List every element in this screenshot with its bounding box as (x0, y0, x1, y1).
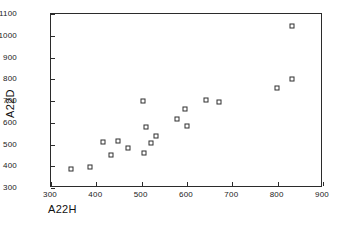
data-point-marker (185, 124, 190, 129)
data-point-marker (141, 99, 146, 104)
x-tick-mark (187, 182, 188, 186)
x-tick-label: 800 (270, 190, 284, 199)
y-tick-label: 500 (3, 139, 17, 148)
x-tick-label: 500 (134, 190, 148, 199)
y-tick-mark (51, 123, 55, 124)
y-tick-mark (51, 145, 55, 146)
x-tick-label: 900 (315, 190, 329, 199)
data-point-marker (182, 106, 187, 111)
data-point-marker (109, 153, 114, 158)
x-tick-mark (142, 182, 143, 186)
y-tick-mark (51, 79, 55, 80)
x-tick-label: 600 (179, 190, 193, 199)
data-point-marker (216, 99, 221, 104)
data-point-marker (100, 139, 105, 144)
y-tick-label: 400 (3, 161, 17, 170)
x-tick-label: 400 (88, 190, 102, 199)
x-axis-title: A22H (48, 203, 77, 215)
x-tick-mark (323, 182, 324, 186)
x-tick-label: 700 (224, 190, 238, 199)
data-point-marker (125, 145, 130, 150)
x-tick-mark (96, 182, 97, 186)
x-tick-mark (232, 182, 233, 186)
data-point-marker (275, 86, 280, 91)
data-point-marker (153, 133, 158, 138)
y-tick-label: 900 (3, 52, 17, 61)
y-tick-mark (51, 36, 55, 37)
data-point-marker (141, 150, 146, 155)
y-tick-label: 700 (3, 96, 17, 105)
y-tick-label: 1100 (0, 9, 17, 18)
data-point-marker (204, 98, 209, 103)
y-tick-label: 300 (3, 183, 17, 192)
y-tick-mark (51, 166, 55, 167)
data-point-marker (115, 138, 120, 143)
data-point-marker (175, 117, 180, 122)
x-tick-label: 300 (43, 190, 57, 199)
y-tick-mark (51, 101, 55, 102)
data-point-marker (149, 140, 154, 145)
data-point-marker (289, 23, 294, 28)
data-point-marker (144, 124, 149, 129)
y-tick-label: 1000 (0, 30, 17, 39)
x-tick-mark (278, 182, 279, 186)
x-tick-mark (51, 182, 52, 186)
y-tick-label: 800 (3, 74, 17, 83)
data-point-marker (69, 166, 74, 171)
y-tick-mark (51, 58, 55, 59)
y-tick-mark (51, 188, 55, 189)
data-point-marker (87, 165, 92, 170)
scatter-chart-figure: A22D A22H 300400500600700800900100011003… (0, 0, 342, 231)
data-point-marker (289, 77, 294, 82)
y-tick-mark (51, 14, 55, 15)
y-tick-label: 600 (3, 117, 17, 126)
plot-area (50, 13, 322, 187)
